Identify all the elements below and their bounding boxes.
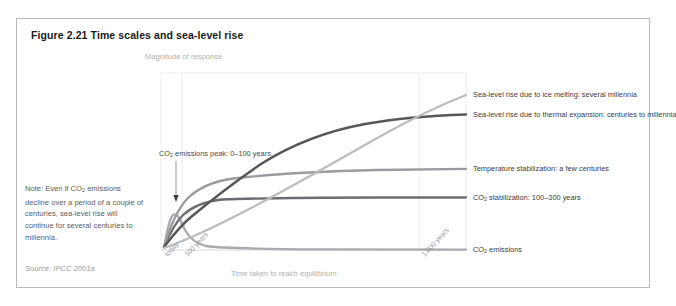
series-label-temperature-stabilization: Temperature stabilization: a few centuri… bbox=[473, 164, 609, 173]
x-axis-caption: Time taken to reach equilibrium bbox=[231, 269, 337, 278]
series-label-co2-emissions: CO2 emissions bbox=[473, 245, 522, 254]
plot-area: CO2 emissions peak: 0–100 years Sea-leve… bbox=[17, 19, 651, 289]
figure-panel: Figure 2.21 Time scales and sea-level ri… bbox=[16, 18, 650, 288]
series-label-ice-melting: Sea-level rise due to ice melting: sever… bbox=[473, 90, 637, 99]
chart-svg bbox=[17, 19, 651, 289]
plot-frame bbox=[161, 73, 466, 250]
series-label-co2-stabilization: CO2 stabilization: 100–300 years bbox=[473, 193, 581, 202]
annotation-co2-peak: CO2 emissions peak: 0–100 years bbox=[159, 149, 271, 158]
series-label-thermal-expansion: Sea-level rise due to thermal expansion:… bbox=[473, 110, 676, 119]
